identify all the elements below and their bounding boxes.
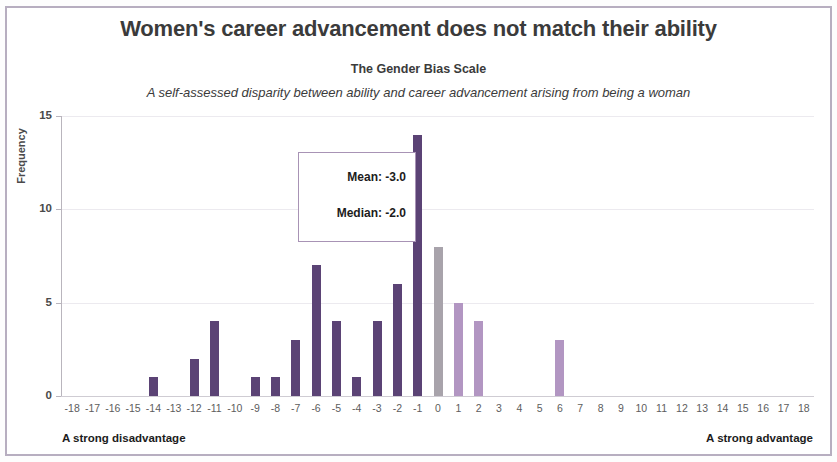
x-tick-label: 4 [516, 402, 522, 414]
x-tick-label: 12 [676, 402, 688, 414]
scale-label-left: A strong disadvantage [62, 432, 186, 444]
x-tick-label: 11 [656, 402, 667, 414]
x-tick-label: 13 [696, 402, 708, 414]
mean-label: Mean: -3.0 [347, 170, 406, 184]
median-label: Median: -2.0 [337, 206, 406, 220]
bar [251, 377, 260, 396]
x-tick-label: 1 [455, 402, 461, 414]
x-tick-label: -10 [227, 402, 242, 414]
bar [393, 284, 402, 396]
x-tick-label: 5 [537, 402, 543, 414]
x-tick-label: 17 [778, 402, 790, 414]
x-tick-label: -1 [413, 402, 422, 414]
x-tick-label: -13 [166, 402, 181, 414]
x-tick-label: 9 [618, 402, 624, 414]
bar [373, 321, 382, 396]
x-tick-label: -4 [352, 402, 361, 414]
y-tick-label: 0 [12, 389, 52, 401]
x-tick-label: -9 [250, 402, 259, 414]
x-tick-label: -12 [187, 402, 202, 414]
stats-annotation-box: Mean: -3.0 Median: -2.0 [298, 152, 416, 242]
bar [190, 359, 199, 396]
x-tick-label: 10 [635, 402, 647, 414]
bar [332, 321, 341, 396]
x-tick-label: 16 [757, 402, 769, 414]
x-tick-label: 7 [577, 402, 583, 414]
x-tick-label: 14 [717, 402, 729, 414]
y-axis-title: Frequency [15, 111, 27, 201]
x-tick-label: -2 [393, 402, 402, 414]
x-tick-label: -5 [332, 402, 341, 414]
bar [352, 377, 361, 396]
x-tick-label: 15 [737, 402, 749, 414]
x-tick-label: 18 [798, 402, 810, 414]
x-tick-label: -7 [291, 402, 300, 414]
x-tick-label: -16 [105, 402, 120, 414]
x-axis-line [61, 396, 814, 397]
x-tick-label: -6 [311, 402, 320, 414]
x-tick-label: -14 [146, 402, 161, 414]
scale-label-right: A strong advantage [706, 432, 813, 444]
x-tick-label: 0 [435, 402, 441, 414]
bar [555, 340, 564, 396]
plot-area [62, 116, 814, 396]
bar [474, 321, 483, 396]
x-tick-label: -3 [372, 402, 381, 414]
bar [149, 377, 158, 396]
x-tick-label: -8 [271, 402, 280, 414]
bar [312, 265, 321, 396]
x-tick-label: 2 [476, 402, 482, 414]
chart-description: A self-assessed disparity between abilit… [0, 85, 837, 100]
chart-page: Women's career advancement does not matc… [0, 0, 837, 462]
x-tick-label: 8 [598, 402, 604, 414]
x-tick-label: 6 [557, 402, 563, 414]
x-tick-label: -18 [65, 402, 80, 414]
bar [210, 321, 219, 396]
bar [454, 303, 463, 396]
page-title: Women's career advancement does not matc… [0, 16, 837, 42]
y-tick-label: 10 [12, 202, 52, 214]
bar [291, 340, 300, 396]
bar [271, 377, 280, 396]
x-tick-label: 3 [496, 402, 502, 414]
bar [434, 247, 443, 396]
x-tick-label: -15 [126, 402, 141, 414]
y-tick-label: 5 [12, 296, 52, 308]
x-tick-label: -17 [85, 402, 100, 414]
chart-subtitle: The Gender Bias Scale [0, 62, 837, 76]
x-tick-label: -11 [207, 402, 221, 414]
